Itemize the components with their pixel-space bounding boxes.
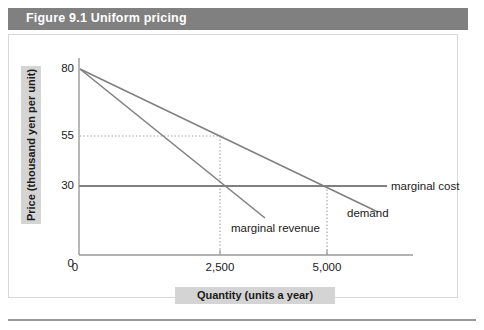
y-axis-title-box: Price (thousand yen per unit) [21, 66, 41, 224]
marginal-cost-label: marginal cost [391, 180, 459, 192]
figure-title-bar: Figure 9.1 Uniform pricing [8, 8, 468, 30]
demand-label: demand [347, 207, 389, 219]
y-tick-label-55: 55 [40, 129, 74, 141]
x-tick-label-2500: 2,500 [195, 261, 245, 273]
marginal-revenue-label: marginal revenue [231, 222, 320, 234]
x-tick-label-0: 0 [50, 261, 100, 273]
y-axis-title: Price (thousand yen per unit) [25, 69, 37, 221]
x-axis-title: Quantity (units a year) [175, 289, 335, 301]
chart-plot-panel [8, 34, 458, 298]
figure-title: Figure 9.1 Uniform pricing [26, 11, 187, 25]
figure-container: Figure 9.1 Uniform pricing 80 55 30 0 0 … [0, 0, 484, 330]
x-tick-label-5000: 5,000 [302, 261, 352, 273]
figure-bottom-rule [8, 319, 476, 321]
x-axis-title-box: Quantity (units a year) [175, 287, 335, 304]
y-tick-label-80: 80 [40, 62, 74, 74]
y-tick-label-30: 30 [40, 179, 74, 191]
